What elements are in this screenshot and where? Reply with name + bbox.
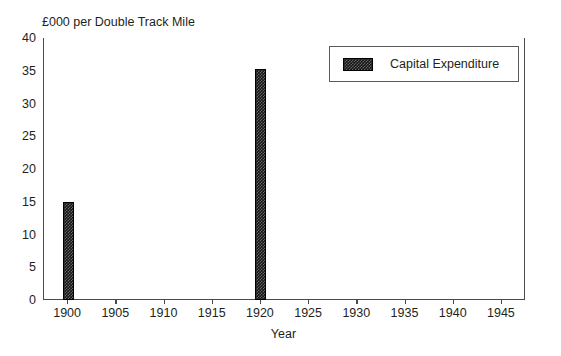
x-axis-tick-mark [67,300,68,304]
y-axis-tick-label: 35 [0,65,36,77]
y-axis-tick-label: 5 [0,261,36,273]
x-axis-tick-label: 1910 [150,306,178,321]
y-axis-tick-label: 15 [0,196,36,208]
x-axis-tick-mark [405,300,406,304]
legend-label-capital-expenditure: Capital Expenditure [390,57,499,71]
x-axis-tick-mark [356,300,357,304]
legend-entry[interactable]: Capital Expenditure [330,47,518,81]
x-axis-tick-mark [308,300,309,304]
x-axis-tick-mark [260,300,261,304]
y-axis-tick-label: 40 [0,32,36,44]
y-axis-tick-label: 30 [0,98,36,110]
x-axis-tick-label: 1940 [439,306,467,321]
chart-figure: £000 per Double Track Mile 0510152025303… [0,0,561,356]
y-axis-tick-label: 10 [0,229,36,241]
x-axis-tick-label: 1900 [53,306,81,321]
bar-1920 [255,69,266,300]
y-axis-tick-label: 0 [0,294,36,306]
y-axis-tick-label: 25 [0,130,36,142]
chart-legend: Capital Expenditure [329,46,519,82]
x-axis-tick-label: 1930 [342,306,370,321]
x-axis-tick-mark [115,300,116,304]
x-axis-tick-label: 1915 [198,306,226,321]
x-axis-tick-marks [43,300,525,305]
x-axis-tick-label: 1925 [294,306,322,321]
x-axis-tick-labels: 1900190519101915192019251930193519401945 [43,306,525,324]
x-axis-label: Year [0,327,561,342]
x-axis-tick-mark [501,300,502,304]
bar-1900 [63,202,74,300]
x-axis-tick-label: 1945 [487,306,515,321]
chart-title: £000 per Double Track Mile [42,15,195,29]
y-axis-tick-labels: 0510152025303540 [0,38,36,300]
x-axis-tick-label: 1920 [246,306,274,321]
x-axis-tick-mark [164,300,165,304]
x-axis-tick-mark [212,300,213,304]
x-axis-tick-mark [453,300,454,304]
legend-swatch-capital-expenditure [343,58,373,71]
y-axis-tick-label: 20 [0,163,36,175]
x-axis-tick-label: 1905 [101,306,129,321]
x-axis-label-text: Year [271,327,296,341]
x-axis-tick-label: 1935 [391,306,419,321]
